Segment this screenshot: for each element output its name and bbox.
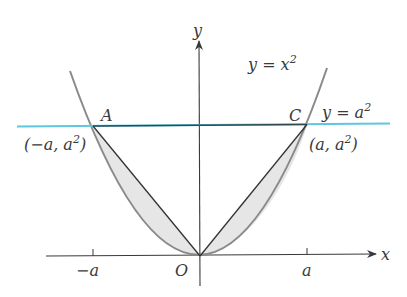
parabola-diagram: y x O −a a y = x2 y = a2 A (−a, a2) C (a… [0,0,407,297]
y-axis [199,41,200,286]
point-C-coordinates: (a, a2) [309,133,358,154]
y-axis-label: y [192,21,203,40]
x-axis [46,254,376,256]
x-axis-label: x [381,245,390,264]
segment-OA [93,126,200,256]
parabola-equation-label: y = x2 [247,53,297,74]
tick-label-a: a [302,261,312,280]
point-A-label: A [99,106,113,125]
origin-label: O [175,261,188,280]
segment-OC [200,125,307,257]
point-A-coordinates: (−a, a2) [24,133,86,154]
horizontal-line-equation-label: y = a2 [321,101,371,122]
point-C-label: C [289,106,301,125]
tick-label-neg-a: −a [76,261,99,280]
